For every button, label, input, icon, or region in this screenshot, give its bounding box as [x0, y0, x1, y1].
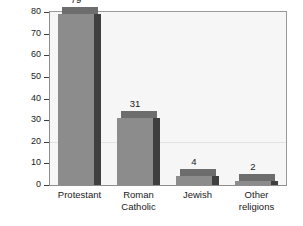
- bar-side-face: [271, 181, 278, 185]
- bar-side-face: [94, 14, 101, 185]
- y-axis-tick-label: 20: [31, 136, 41, 146]
- y-axis-tick-label: 60: [31, 49, 41, 59]
- bar-value-label: 79: [71, 0, 82, 5]
- bar: 79: [58, 7, 94, 185]
- bar-front-face: [176, 176, 212, 185]
- bar: 2: [235, 174, 271, 185]
- bar-chart: Number (in millions) 01020304050607080 7…: [0, 0, 303, 226]
- bar-value-label: 4: [191, 156, 196, 167]
- y-axis-tick-label: 30: [31, 114, 41, 124]
- bar-top-face: [239, 174, 275, 181]
- y-axis-tick-label: 70: [31, 28, 41, 38]
- bar-front-face: [58, 14, 94, 185]
- bar-side-face: [153, 118, 160, 185]
- y-axis-tick-label: 0: [36, 179, 41, 189]
- y-axis-tick-label: 10: [31, 157, 41, 167]
- y-axis-tick-label: 40: [31, 93, 41, 103]
- bar-side-face: [212, 176, 219, 185]
- bar-top-face: [62, 7, 98, 14]
- bar-top-face: [121, 111, 157, 118]
- x-axis-label-line: Catholic: [99, 201, 179, 213]
- bar-front-face: [117, 118, 153, 185]
- x-axis-label-line: religions: [217, 201, 297, 213]
- plot-area: 793142: [49, 11, 287, 186]
- bar-value-label: 2: [250, 161, 255, 172]
- bar-top-face: [180, 169, 216, 176]
- x-axis-label-line: Other: [217, 189, 297, 201]
- bar: 31: [117, 111, 153, 185]
- bar-front-face: [235, 181, 271, 185]
- bar-value-label: 31: [130, 98, 141, 109]
- y-axis-tick-label: 50: [31, 71, 41, 81]
- x-axis-label: Otherreligions: [217, 189, 297, 212]
- bar: 4: [176, 169, 212, 185]
- y-axis-tick-label: 80: [31, 6, 41, 16]
